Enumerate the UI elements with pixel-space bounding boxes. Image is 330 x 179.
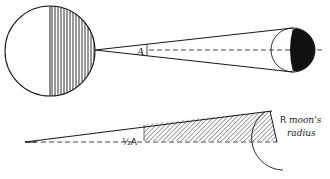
upper-diagram: A bbox=[5, 0, 322, 100]
earth-circle bbox=[5, 0, 100, 100]
radius-label: radius bbox=[287, 128, 316, 138]
eclipse-diagram: A ½A R moon's radius bbox=[0, 0, 330, 179]
hatched-triangle bbox=[144, 111, 277, 141]
moons-label: moon's bbox=[289, 115, 322, 125]
half-angle-label: ½A bbox=[122, 137, 138, 147]
lower-diagram: ½A R moon's radius bbox=[25, 111, 322, 170]
r-label: R bbox=[280, 115, 286, 125]
shadow-cone bbox=[95, 28, 322, 72]
angle-a-label: A bbox=[136, 46, 144, 57]
